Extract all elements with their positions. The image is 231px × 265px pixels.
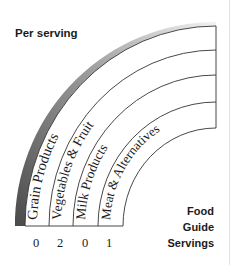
servings-milk: 0 bbox=[82, 236, 88, 250]
band-label-meat: Meat & Alternatives bbox=[98, 121, 162, 221]
legend-food: Food bbox=[187, 205, 214, 217]
servings-vegetables: 2 bbox=[57, 236, 63, 250]
right-edge-divider bbox=[229, 0, 230, 265]
per-serving-title: Per serving bbox=[15, 27, 78, 39]
legend-guide: Guide bbox=[183, 221, 214, 233]
servings-meat: 1 bbox=[106, 236, 112, 250]
rainbow-arc-graphic: Grain Products Vegetables & Fruit Milk P… bbox=[0, 0, 231, 265]
food-guide-diagram: Grain Products Vegetables & Fruit Milk P… bbox=[0, 0, 231, 265]
legend-servings: Servings bbox=[168, 237, 214, 249]
servings-grain: 0 bbox=[33, 236, 39, 250]
